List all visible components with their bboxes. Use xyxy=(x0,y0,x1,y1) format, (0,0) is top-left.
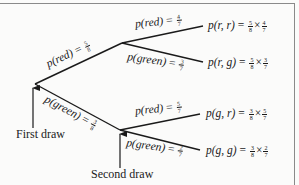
equals-sign: = xyxy=(72,43,83,57)
equals-sign: = xyxy=(165,14,173,27)
outcome-rr: p(r, r) = 58×47 xyxy=(208,20,268,33)
equals-sign: = xyxy=(167,142,175,155)
equals-sign: = xyxy=(238,19,245,31)
second-draw-label: Second draw xyxy=(91,168,153,180)
times-sign: × xyxy=(255,56,262,68)
outcome-label: p(r, g) xyxy=(208,56,236,68)
fraction: 57 xyxy=(176,101,182,114)
equals-sign: = xyxy=(80,113,91,127)
first-draw-label: First draw xyxy=(16,128,65,140)
outcome-rg: p(r, g) = 58×37 xyxy=(208,57,269,70)
probability-tree-diagram: p(red) = 58 p(green) = 38 p(red) = 47 p(… xyxy=(0,0,299,185)
fraction: 47 xyxy=(176,14,182,27)
outcome-label: p(g, g) xyxy=(206,144,237,156)
times-sign: × xyxy=(255,107,262,119)
times-sign: × xyxy=(254,19,261,31)
equals-sign: = xyxy=(168,56,176,69)
outcome-gr: p(g, r) = 38×57 xyxy=(206,108,268,121)
outcome-gg: p(g, g) = 38×27 xyxy=(206,145,269,158)
equals-sign: = xyxy=(239,56,246,68)
label-text: p(red) xyxy=(134,15,163,30)
times-sign: × xyxy=(256,144,263,156)
equals-sign: = xyxy=(165,101,173,114)
fraction: 27 xyxy=(177,144,184,158)
equals-sign: = xyxy=(238,107,245,119)
equals-sign: = xyxy=(240,144,247,156)
outcome-label: p(r, r) xyxy=(208,19,235,31)
branch-gr xyxy=(120,114,200,130)
label-text: p(red) xyxy=(134,102,163,117)
outcome-label: p(g, r) xyxy=(206,107,235,119)
fraction: 37 xyxy=(178,58,185,72)
